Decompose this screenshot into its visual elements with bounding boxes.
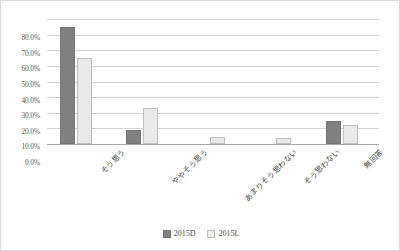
legend-item[interactable]: 2015L bbox=[207, 229, 239, 238]
bar-2015D-4[interactable] bbox=[326, 121, 341, 144]
y-axis-tick: 30.0% bbox=[21, 111, 40, 120]
bar-group bbox=[313, 19, 379, 144]
y-axis-tick: 40.0% bbox=[21, 95, 40, 104]
legend-swatch-icon bbox=[207, 230, 215, 238]
x-axis-tick: そう思わない bbox=[301, 146, 342, 187]
x-axis-tick: 無回答 bbox=[361, 146, 385, 170]
y-axis-tick: 80.0% bbox=[21, 33, 40, 42]
y-axis-tick: 0.0% bbox=[25, 158, 40, 167]
bar-2015L-2[interactable] bbox=[210, 137, 225, 144]
chart-container: 80.0% 70.0% 60.0% 50.0% 40.0% 30.0% 20.0… bbox=[0, 0, 400, 251]
bar-2015L-1[interactable] bbox=[143, 108, 158, 144]
y-axis: 80.0% 70.0% 60.0% 50.0% 40.0% 30.0% 20.0… bbox=[1, 19, 45, 144]
bar-group bbox=[180, 19, 246, 144]
y-axis-tick: 20.0% bbox=[21, 126, 40, 135]
bar-group bbox=[47, 19, 113, 144]
x-axis-tick: あまりそう思わない bbox=[242, 146, 299, 203]
y-axis-tick: 50.0% bbox=[21, 79, 40, 88]
x-axis-tick: ややそう思う bbox=[168, 146, 209, 187]
bars-layer bbox=[47, 19, 379, 144]
y-axis-tick: 60.0% bbox=[21, 64, 40, 73]
plot-area bbox=[47, 19, 379, 144]
legend-item-label: 2015D bbox=[174, 229, 196, 238]
y-axis-tick: 10.0% bbox=[21, 142, 40, 151]
bar-2015D-1[interactable] bbox=[126, 130, 141, 144]
bar-2015L-4[interactable] bbox=[343, 125, 358, 144]
x-axis-tick: そう思う bbox=[97, 146, 127, 176]
y-axis-tick: 70.0% bbox=[21, 48, 40, 57]
x-axis: そう思うややそう思うあまりそう思わないそう思わない無回答 bbox=[47, 144, 379, 219]
bar-2015L-0[interactable] bbox=[77, 58, 92, 144]
bar-group bbox=[246, 19, 312, 144]
legend-item[interactable]: 2015D bbox=[163, 229, 196, 238]
legend: 2015D 2015L bbox=[1, 229, 400, 238]
bar-2015D-0[interactable] bbox=[60, 27, 75, 144]
legend-item-label: 2015L bbox=[218, 229, 239, 238]
legend-swatch-icon bbox=[163, 230, 171, 238]
bar-group bbox=[113, 19, 179, 144]
